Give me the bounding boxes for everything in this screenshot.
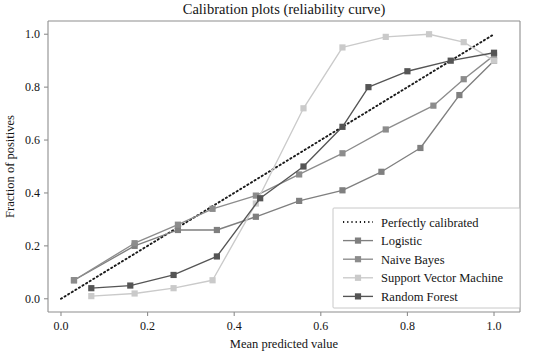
series-marker (253, 214, 259, 220)
series-marker (456, 92, 462, 98)
series-marker (88, 285, 94, 291)
series-marker (296, 171, 302, 177)
series-marker (339, 124, 345, 130)
series-marker (339, 150, 345, 156)
series-marker (461, 39, 467, 45)
series-marker (461, 76, 467, 82)
series-marker (214, 253, 220, 259)
chart-title: Calibration plots (reliability curve) (183, 1, 386, 18)
legend-entry-label: Support Vector Machine (381, 271, 503, 285)
chart-canvas: Calibration plots (reliability curve)0.0… (0, 0, 534, 358)
series-marker (417, 145, 423, 151)
legend-swatch-marker (355, 275, 361, 281)
series-marker (132, 290, 138, 296)
series-marker (170, 272, 176, 278)
x-tick-label: 0.0 (53, 319, 68, 333)
legend-entry-label: Logistic (381, 234, 422, 248)
legend-entry-label: Perfectly calibrated (381, 216, 479, 230)
x-tick-label: 1.0 (487, 319, 502, 333)
legend-swatch-marker (355, 256, 361, 262)
series-marker (170, 285, 176, 291)
series-marker (132, 240, 138, 246)
calibration-plot-figure: Calibration plots (reliability curve)0.0… (0, 0, 534, 358)
series-marker (300, 163, 306, 169)
y-tick-label: 0.2 (25, 239, 40, 253)
series-marker (175, 222, 181, 228)
series-marker (404, 68, 410, 74)
legend-swatch-marker (355, 238, 361, 244)
y-tick-label: 1.0 (25, 27, 40, 41)
y-tick-label: 0.4 (25, 186, 40, 200)
series-marker (430, 103, 436, 109)
x-tick-label: 0.4 (227, 319, 242, 333)
x-tick-label: 0.8 (400, 319, 415, 333)
series-marker (426, 31, 432, 37)
legend-entry-label: Naive Bayes (381, 253, 445, 267)
series-marker (209, 277, 215, 283)
legend-swatch-marker (355, 293, 361, 299)
series-marker (214, 227, 220, 233)
chart-legend: Perfectly calibratedLogisticNaive BayesS… (333, 208, 520, 308)
legend-entry-label: Random Forest (381, 290, 458, 304)
series-marker (88, 293, 94, 299)
series-marker (71, 277, 77, 283)
series-marker (383, 126, 389, 132)
y-tick-label: 0.8 (25, 80, 40, 94)
y-axis-label: Fraction of positives (3, 115, 17, 218)
series-marker (300, 105, 306, 111)
series-marker (257, 195, 263, 201)
series-marker (209, 206, 215, 212)
series-marker (175, 227, 181, 233)
series-marker (339, 44, 345, 50)
series-marker (365, 84, 371, 90)
x-tick-label: 0.2 (140, 319, 155, 333)
series-marker (378, 169, 384, 175)
series-marker (448, 58, 454, 64)
x-tick-label: 0.6 (313, 319, 328, 333)
series-marker (491, 58, 497, 64)
series-marker (383, 34, 389, 40)
series-marker (296, 198, 302, 204)
series-marker (339, 187, 345, 193)
series-marker (491, 50, 497, 56)
x-axis-label: Mean predicted value (230, 337, 339, 351)
y-tick-label: 0.0 (25, 292, 40, 306)
series-marker (127, 282, 133, 288)
y-tick-label: 0.6 (25, 133, 40, 147)
